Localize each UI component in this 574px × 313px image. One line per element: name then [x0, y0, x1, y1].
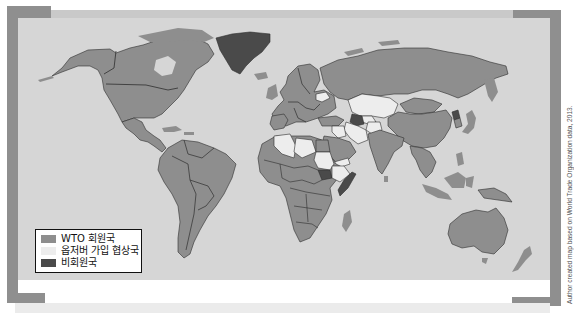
legend-swatch-member	[41, 235, 56, 243]
frame-bottom-shadow	[15, 303, 550, 313]
legend-label-observer: 옵저버 가입 협상국	[61, 245, 139, 257]
legend-item-observer: 옵저버 가입 협상국	[41, 245, 141, 257]
frame-bar-left	[7, 6, 18, 303]
frame-bar-right	[550, 10, 561, 306]
region-japan	[462, 110, 476, 134]
region-south-america	[158, 140, 236, 258]
region-new-guinea	[478, 188, 512, 202]
region-mongolia	[400, 98, 442, 114]
region-aleutians	[38, 76, 54, 82]
region-central-america	[122, 118, 166, 152]
legend-swatch-observer	[41, 247, 56, 255]
region-southeast-asia	[410, 146, 436, 178]
region-india	[368, 130, 404, 174]
region-madagascar	[342, 210, 352, 232]
map-legend: WTO 회원국 옵저버 가입 협상국 비회원국	[35, 229, 142, 273]
region-north-america	[52, 36, 214, 122]
region-iran	[344, 122, 368, 144]
region-greenland	[216, 32, 270, 74]
legend-label-member: WTO 회원국	[61, 233, 115, 245]
frame-bracket-bottom-left	[7, 293, 45, 303]
map-bottom-band	[18, 280, 550, 293]
legend-item-member: WTO 회원국	[41, 233, 141, 245]
region-arctic-islands	[138, 28, 214, 42]
source-credit: Author created map based on World Trade …	[566, 105, 573, 304]
legend-swatch-non-member	[41, 259, 56, 267]
frame-strip-top	[51, 10, 513, 18]
legend-label-non-member: 비회원국	[61, 257, 97, 269]
region-new-zealand	[512, 246, 532, 272]
legend-item-non-member: 비회원국	[41, 257, 141, 269]
region-australia	[448, 208, 508, 254]
region-iraq	[332, 126, 346, 138]
region-turkey	[318, 116, 344, 126]
